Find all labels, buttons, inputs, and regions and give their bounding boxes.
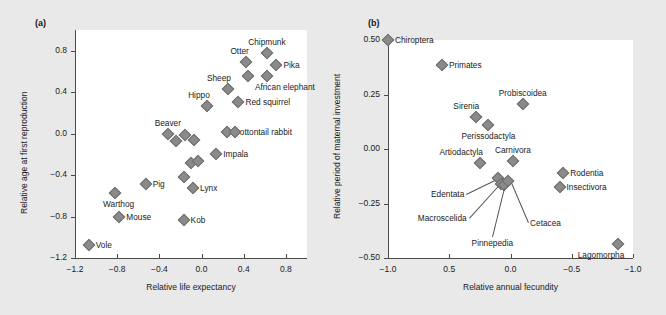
b-x-tick-label: 0.5 <box>429 264 469 274</box>
data-point-label: Chipmunk <box>248 37 285 47</box>
data-point-label: Cottontail rabbit <box>234 127 292 137</box>
a-x-tick <box>202 254 203 258</box>
b-y-tick-label: 0.50 <box>342 34 380 44</box>
data-point-label: Beaver <box>155 118 181 128</box>
data-point-label: Perissodactyla <box>461 131 515 141</box>
data-point-label: Carnivora <box>495 145 531 155</box>
data-point-label: Insectivora <box>567 182 607 192</box>
data-point-label: Lagomorpha <box>578 250 625 260</box>
a-y-tick <box>71 175 75 176</box>
data-point-label: Chiroptera <box>395 35 434 45</box>
panel-a: (a) 0.80.40.0−0.4−0.8−1.2−1.2−0.8−0.40.0… <box>0 0 333 315</box>
data-point-label: Probiscoidea <box>499 88 547 98</box>
b-y-tick <box>384 149 388 150</box>
data-point-label: Vole <box>96 240 112 250</box>
panel-a-y-axis-title: Relative age at first reproduction <box>19 92 29 214</box>
a-x-tick-label: 0.8 <box>266 264 306 274</box>
b-y-tick <box>384 95 388 96</box>
a-y-tick-label: 0.8 <box>29 45 67 55</box>
panel-a-tag: (a) <box>35 18 46 28</box>
a-x-tick <box>286 254 287 258</box>
b-x-tick <box>388 254 389 258</box>
b-y-tick-label: −0.50 <box>342 252 380 262</box>
b-y-tick <box>384 258 388 259</box>
data-point-label: Lynx <box>200 183 217 193</box>
a-y-tick-label: 0.4 <box>29 86 67 96</box>
data-point-label: Pinnepedia <box>472 238 514 248</box>
data-point-label: Kob <box>191 215 206 225</box>
panel-b: (b) 0.500.250.00−0.25−0.50−1.00.50.0−0.5… <box>333 0 666 315</box>
b-x-tick-label: −1.0 <box>368 264 408 274</box>
a-x-tick-label: 0.0 <box>182 264 222 274</box>
data-point-label: Red squirrel <box>245 97 290 107</box>
data-point-label: Pig <box>153 179 165 189</box>
data-point-label: Hippo <box>188 90 210 100</box>
data-point-label: Primates <box>449 60 482 70</box>
data-point-label: Edentata <box>431 189 464 199</box>
b-x-tick <box>511 254 512 258</box>
data-point-label: Artiodactyla <box>440 147 483 157</box>
b-x-tick <box>633 254 634 258</box>
a-x-tick <box>244 254 245 258</box>
b-x-tick <box>449 254 450 258</box>
b-x-tick-label: 0.0 <box>491 264 531 274</box>
data-point-label: Rodentia <box>570 168 603 178</box>
b-y-axis-line <box>388 40 389 258</box>
a-y-tick-label: −0.8 <box>29 211 67 221</box>
a-y-tick-label: 0.0 <box>29 128 67 138</box>
data-point-label: Cetacea <box>530 218 561 228</box>
figure-container: (a) 0.80.40.0−0.4−0.8−1.2−1.2−0.8−0.40.0… <box>0 0 666 315</box>
panel-b-tag: (b) <box>368 18 380 28</box>
panel-b-y-axis-title: Relative period of maternal investment <box>332 74 342 219</box>
data-point-label: Otter <box>230 46 248 56</box>
b-y-tick-label: 0.25 <box>342 89 380 99</box>
data-point-label: Impala <box>223 149 248 159</box>
a-x-tick <box>75 254 76 258</box>
data-point-label: Sirenia <box>453 101 479 111</box>
a-y-tick <box>71 92 75 93</box>
a-y-tick <box>71 134 75 135</box>
a-x-tick <box>159 254 160 258</box>
a-y-tick <box>71 217 75 218</box>
a-y-tick-label: −0.4 <box>29 169 67 179</box>
b-y-tick <box>384 204 388 205</box>
panel-a-x-axis-title: Relative life expectancy <box>136 282 246 292</box>
a-x-tick-label: −0.8 <box>97 264 137 274</box>
a-y-tick-label: −1.2 <box>29 252 67 262</box>
data-point-label: Warthog <box>103 199 134 209</box>
a-x-tick-label: −1.2 <box>55 264 95 274</box>
b-x-tick-label: −1.0 <box>613 264 653 274</box>
data-point-label: Sheep <box>207 73 231 83</box>
a-x-tick-label: 0.4 <box>224 264 264 274</box>
b-y-tick-label: −0.25 <box>342 198 380 208</box>
b-x-tick <box>572 254 573 258</box>
a-y-tick <box>71 258 75 259</box>
a-x-axis-line <box>75 258 307 259</box>
a-y-axis-line <box>75 30 76 258</box>
data-point-label: Pika <box>283 60 299 70</box>
b-x-tick-label: −0.5 <box>552 264 592 274</box>
data-point-label: African elephant <box>255 82 315 92</box>
a-x-tick <box>117 254 118 258</box>
a-x-tick-label: −0.4 <box>139 264 179 274</box>
data-point-label: Macroscelida <box>418 213 467 223</box>
a-y-tick <box>71 51 75 52</box>
data-point-label: Mouse <box>126 212 151 222</box>
panel-b-x-axis-title: Relative annual fecundity <box>456 282 566 292</box>
b-y-tick-label: 0.00 <box>342 143 380 153</box>
